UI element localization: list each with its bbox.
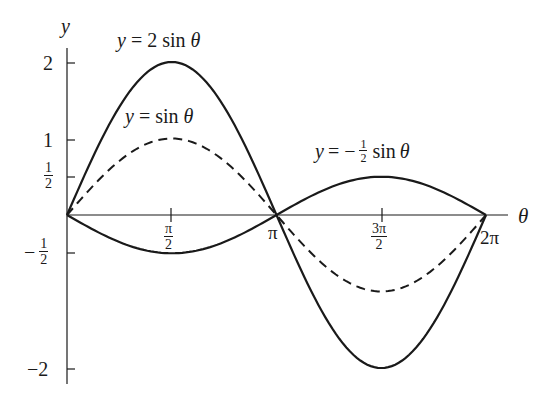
ann-var-theta: θ	[400, 141, 410, 161]
x-axis-label: θ	[518, 206, 528, 227]
x-tick-label-3pi-over-2: 3π2	[371, 222, 387, 252]
y-tick-label-neg-half: −12	[24, 237, 48, 267]
frac-den: 2	[360, 151, 366, 164]
minus-sign: −	[24, 241, 35, 263]
ann-var-theta: θ	[191, 29, 201, 51]
frac-num: 1	[359, 138, 367, 151]
frac-num: 3π	[371, 222, 387, 237]
annotation-neg-half-sin-theta: y = − 12 sin θ	[315, 138, 410, 164]
y-tick-label-1: 1	[43, 130, 53, 150]
ann-var-y: y	[315, 141, 324, 161]
ann-expr-sin: sin	[372, 141, 395, 161]
y-tick-label-half: 12	[44, 161, 53, 191]
ann-expr: = 2 sin	[131, 29, 186, 51]
ann-var-theta: θ	[184, 105, 194, 127]
frac-num: π	[164, 222, 173, 237]
x-tick-label-pi: π	[268, 223, 278, 242]
x-tick-label-2pi: 2π	[480, 228, 499, 247]
frac-num: 1	[39, 237, 48, 252]
annotation-sin-theta: y = sin θ	[125, 106, 193, 126]
chart-plot-area	[0, 0, 538, 395]
frac-den: 2	[376, 237, 383, 252]
ann-var-y: y	[117, 29, 126, 51]
x-tick-label-pi-over-2: π2	[164, 222, 173, 252]
frac-den: 2	[165, 237, 172, 252]
y-axis-label: y	[61, 16, 70, 36]
frac-num: 1	[44, 161, 53, 176]
frac-den: 2	[45, 176, 52, 191]
annotation-2-sin-theta: y = 2 sin θ	[117, 30, 200, 50]
ann-expr: = −	[328, 141, 356, 161]
ann-expr: = sin	[139, 105, 179, 127]
y-tick-label-2: 2	[43, 53, 53, 73]
ann-var-y: y	[125, 105, 134, 127]
frac-den: 2	[40, 252, 47, 267]
y-tick-label-neg-2: −2	[27, 359, 48, 379]
